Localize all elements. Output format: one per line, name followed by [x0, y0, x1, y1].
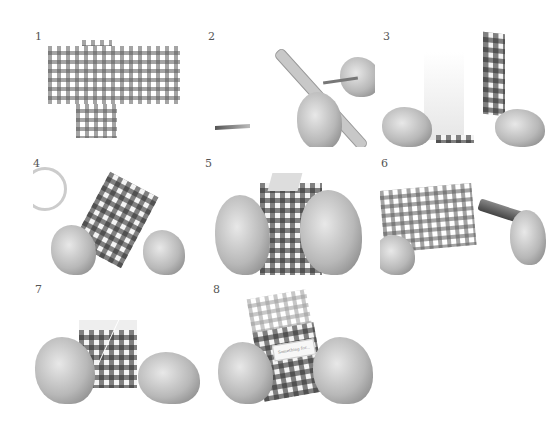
- gingham-side-upright: [483, 32, 505, 116]
- step-number: 2: [208, 30, 215, 43]
- step-number: 5: [205, 157, 212, 170]
- step-panel-8: 8 Something for...: [213, 282, 375, 404]
- step-number: 4: [33, 157, 40, 170]
- step-panel-4: 4: [33, 155, 185, 275]
- step-number: 1: [35, 30, 42, 43]
- hand-holding-ruler: [297, 92, 342, 147]
- box-top: [79, 320, 137, 330]
- right-hand: [495, 109, 545, 147]
- step-panel-5: 5: [205, 155, 375, 275]
- top-flap: [268, 173, 303, 191]
- gingham-bottom-edge: [436, 135, 474, 143]
- step-number: 3: [383, 30, 390, 43]
- step-number: 8: [213, 283, 220, 296]
- right-hand: [138, 352, 200, 404]
- right-hand: [313, 337, 373, 404]
- tape-roll: [33, 167, 67, 211]
- paper-edge: [215, 124, 250, 130]
- step-number: 6: [381, 157, 388, 170]
- box-template-body: [48, 46, 180, 104]
- left-hand: [382, 107, 432, 147]
- right-hand: [510, 210, 546, 265]
- step-panel-3: 3: [380, 27, 546, 147]
- right-hand: [143, 230, 185, 275]
- step-panel-2: 2: [205, 27, 375, 147]
- step-panel-1: 1: [33, 27, 183, 147]
- gift-label-text: Something for...: [278, 344, 311, 355]
- step-panel-6: 6: [380, 155, 546, 275]
- step-number: 7: [35, 283, 42, 296]
- step-panel-7: 7: [33, 282, 201, 404]
- box-template-bottom-panel: [76, 104, 117, 138]
- right-hand: [300, 190, 362, 275]
